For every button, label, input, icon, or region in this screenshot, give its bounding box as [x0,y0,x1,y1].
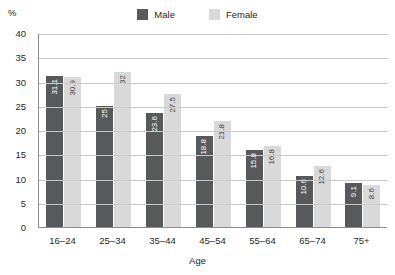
x-axis-tick-label: 16–24 [49,236,75,246]
bar-value-label: 8.6 [368,188,376,199]
bar-value-label: 10.6 [300,179,308,195]
chart-legend: Male Female [0,9,395,20]
x-axis-tick-label: 55–64 [249,236,275,246]
y-axis-tick-label: 15 [0,151,26,161]
legend-swatch-female-icon [209,9,220,20]
bar-value-label: 31.1 [51,79,59,95]
y-axis-tick-label: 0 [0,223,26,233]
gridline [39,58,388,59]
bar-value-label: 16.8 [268,149,276,165]
gridline [39,34,388,35]
bar-female-55-64[interactable]: 16.8 [264,146,281,227]
bar-group: 15.816.8 [246,33,281,227]
bar-value-label: 18.8 [200,139,208,155]
bar-female-75+[interactable]: 8.6 [363,185,380,227]
bar-value-label: 23.6 [151,116,159,132]
y-axis-unit-label: % [8,8,16,18]
bar-female-65-74[interactable]: 12.6 [314,166,331,227]
x-axis-tick-label: 75+ [353,236,369,246]
bar-group: 23.627.5 [146,33,181,227]
gridline [39,180,388,181]
bar-group: 9.18.6 [345,33,380,227]
bar-female-45-54[interactable]: 21.8 [214,121,231,227]
gridline [39,155,388,156]
bar-male-25-34[interactable]: 25 [96,106,113,227]
y-axis-tick-label: 5 [0,199,26,209]
gridline [39,107,388,108]
bar-male-35-44[interactable]: 23.6 [146,113,163,227]
y-axis-tick-label: 20 [0,126,26,136]
bar-value-label: 27.5 [169,97,177,113]
legend-swatch-male-icon [137,9,148,20]
bar-group: 2532 [96,33,131,227]
x-axis-tick-label: 35–44 [149,236,175,246]
legend-item-male[interactable]: Male [137,9,175,20]
bar-group: 18.821.8 [196,33,231,227]
bar-value-label: 21.8 [218,124,226,140]
x-axis-tick-label: 45–54 [199,236,225,246]
y-axis-tick-label: 35 [0,54,26,64]
legend-label-female: Female [226,10,258,20]
gridline [39,131,388,132]
plot-area: 31.130.9253223.627.518.821.815.816.810.6… [38,34,387,228]
bar-groups: 31.130.9253223.627.518.821.815.816.810.6… [39,33,388,227]
bar-male-45-54[interactable]: 18.8 [196,136,213,227]
x-axis-title: Age [0,256,395,266]
x-axis-tick-label: 65–74 [299,236,325,246]
gridline [39,204,388,205]
bar-value-label: 9.1 [350,186,358,197]
y-axis-tick-label: 40 [0,29,26,39]
legend-label-male: Male [154,10,175,20]
gridline [39,83,388,84]
y-axis-tick-label: 30 [0,78,26,88]
y-axis-tick-label: 25 [0,102,26,112]
bar-group: 10.612.6 [296,33,331,227]
bar-male-75+[interactable]: 9.1 [345,183,362,227]
bar-value-label: 12.6 [318,169,326,185]
bar-value-label: 25 [101,109,109,118]
bar-female-35-44[interactable]: 27.5 [164,94,181,227]
legend-item-female[interactable]: Female [209,9,258,20]
x-axis-tick-label: 25–34 [99,236,125,246]
y-axis-tick-label: 10 [0,175,26,185]
bar-group: 31.130.9 [46,33,81,227]
bar-male-55-64[interactable]: 15.8 [246,150,263,227]
bar-chart: Male Female % 31.130.9253223.627.518.821… [0,0,395,275]
bar-male-65-74[interactable]: 10.6 [296,176,313,227]
